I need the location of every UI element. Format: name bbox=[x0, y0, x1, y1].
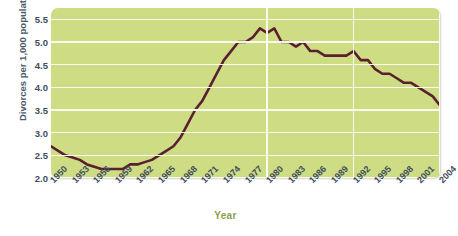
y-axis-tick-label: 4.0 bbox=[8, 82, 48, 93]
y-axis-tick-label: 4.5 bbox=[8, 59, 48, 70]
vertical-gridline bbox=[266, 8, 268, 178]
horizontal-gridline bbox=[51, 19, 440, 21]
x-axis-tick-label: 2004 bbox=[437, 164, 458, 185]
horizontal-gridline bbox=[51, 41, 440, 43]
x-axis-title: Year bbox=[0, 210, 451, 221]
data-series-line bbox=[51, 8, 440, 178]
y-axis-tick-label: 5.0 bbox=[8, 37, 48, 48]
y-axis-tick-label: 2.5 bbox=[8, 150, 48, 161]
y-axis-tick-label: 3.0 bbox=[8, 127, 48, 138]
horizontal-gridline bbox=[51, 132, 440, 134]
vertical-gridline bbox=[353, 8, 355, 178]
vertical-gridline bbox=[439, 8, 440, 178]
y-axis-tick-label: 3.5 bbox=[8, 105, 48, 116]
horizontal-gridline bbox=[51, 64, 440, 66]
horizontal-gridline bbox=[51, 155, 440, 157]
y-axis-tick-label: 5.5 bbox=[8, 14, 48, 25]
horizontal-gridline bbox=[51, 87, 440, 89]
plot-area bbox=[51, 8, 440, 178]
horizontal-gridline bbox=[51, 109, 440, 111]
